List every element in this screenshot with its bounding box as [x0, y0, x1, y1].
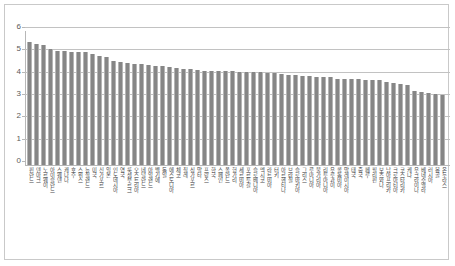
bar[interactable]: [139, 64, 144, 165]
bar[interactable]: [48, 49, 53, 165]
category-label: 크로아티아: [390, 167, 397, 192]
bar[interactable]: [76, 52, 81, 165]
bar[interactable]: [377, 80, 382, 165]
bar[interactable]: [370, 80, 375, 165]
bar[interactable]: [41, 45, 46, 165]
bar[interactable]: [433, 94, 438, 165]
bar[interactable]: [307, 76, 312, 165]
category-label: 슬로베니아: [250, 167, 257, 192]
bar[interactable]: [27, 42, 32, 165]
bar[interactable]: [153, 66, 158, 165]
category-label: 말레이시아: [341, 167, 348, 192]
bar[interactable]: [216, 71, 221, 165]
bar[interactable]: [132, 64, 137, 165]
chart-frame: 0123456 핀란드덴마크노르웨이아이슬란드스웨덴캐나다호주스위스뉴질랜드미국…: [4, 4, 449, 260]
category-labels-group: 핀란드덴마크노르웨이아이슬란드스웨덴캐나다호주스위스뉴질랜드미국신가포르일본인도…: [26, 167, 450, 266]
bar[interactable]: [405, 85, 410, 165]
category-label: 인도네시아: [110, 167, 117, 192]
category-label: 우루과이: [327, 167, 334, 187]
bar[interactable]: [244, 72, 249, 165]
category-label: 리투아니아: [320, 167, 327, 192]
gridline: [25, 27, 450, 28]
bar[interactable]: [90, 54, 95, 165]
y-tick-mark: [22, 116, 25, 117]
category-label: 덴마크: [33, 167, 40, 182]
bar[interactable]: [328, 77, 333, 165]
bar[interactable]: [426, 93, 431, 165]
bars-group: [26, 31, 450, 165]
category-label: 노르웨이: [40, 167, 47, 187]
category-label: 프랑스: [201, 167, 208, 182]
bar[interactable]: [349, 79, 354, 165]
bar[interactable]: [412, 91, 417, 165]
bar[interactable]: [279, 74, 284, 165]
bar[interactable]: [97, 56, 102, 165]
bar[interactable]: [286, 75, 291, 165]
bar[interactable]: [391, 83, 396, 165]
bar[interactable]: [363, 80, 368, 165]
category-label: 일본: [103, 167, 110, 177]
bar[interactable]: [265, 73, 270, 165]
bar[interactable]: [188, 69, 193, 165]
y-tick-label: 4: [5, 68, 21, 76]
category-label: 아이슬란드: [47, 167, 54, 192]
bar[interactable]: [202, 71, 207, 165]
category-label: 독일: [159, 167, 166, 177]
bar[interactable]: [34, 44, 39, 165]
bar[interactable]: [251, 72, 256, 165]
bar[interactable]: [314, 77, 319, 165]
y-tick-label: 5: [5, 45, 21, 53]
category-label: 스웨덴: [54, 167, 61, 182]
bar[interactable]: [69, 52, 74, 165]
category-label: 영국: [117, 167, 124, 177]
category-label: 케냐: [404, 167, 411, 177]
y-tick-label: 1: [5, 135, 21, 143]
bar[interactable]: [384, 82, 389, 165]
category-label: 태국: [348, 167, 355, 177]
bar[interactable]: [104, 57, 109, 165]
bar[interactable]: [146, 65, 151, 165]
category-label: 폴란드: [222, 167, 229, 182]
category-label: 중국: [355, 167, 362, 177]
category-label: 남아프리카: [383, 167, 390, 192]
bar[interactable]: [111, 61, 116, 165]
category-label: 캐나다: [61, 167, 68, 182]
bar[interactable]: [181, 69, 186, 165]
category-label: 러시아: [425, 167, 432, 182]
bar[interactable]: [83, 52, 88, 165]
category-label: 불가리아: [313, 167, 320, 187]
bar[interactable]: [419, 92, 424, 165]
bar[interactable]: [167, 67, 172, 165]
category-label: 헝가리: [229, 167, 236, 182]
bar[interactable]: [272, 73, 277, 165]
category-label: 우크라이나: [411, 167, 418, 192]
x-axis-line: [25, 165, 450, 166]
category-label: 콜롬비아: [334, 167, 341, 187]
category-label: 베네수엘라: [418, 167, 425, 192]
category-label: 몽골: [432, 167, 439, 177]
bar[interactable]: [195, 70, 200, 165]
bar[interactable]: [321, 77, 326, 165]
bar[interactable]: [55, 51, 60, 165]
bar[interactable]: [174, 68, 179, 165]
bar[interactable]: [230, 71, 235, 165]
y-tick-label: 3: [5, 90, 21, 98]
bar[interactable]: [398, 84, 403, 165]
bar[interactable]: [342, 79, 347, 165]
bar[interactable]: [440, 95, 445, 165]
bar[interactable]: [293, 75, 298, 165]
bar[interactable]: [223, 71, 228, 165]
category-label: 핀란드: [26, 167, 33, 182]
bar[interactable]: [356, 79, 361, 165]
bar[interactable]: [258, 72, 263, 165]
bar[interactable]: [125, 63, 130, 165]
bar[interactable]: [335, 79, 340, 165]
bar[interactable]: [62, 51, 67, 165]
bar[interactable]: [237, 72, 242, 165]
bar[interactable]: [118, 62, 123, 165]
category-label: 그리스: [299, 167, 306, 182]
y-tick-mark: [22, 139, 25, 140]
bar[interactable]: [300, 76, 305, 165]
bar[interactable]: [160, 66, 165, 165]
bar[interactable]: [209, 71, 214, 165]
